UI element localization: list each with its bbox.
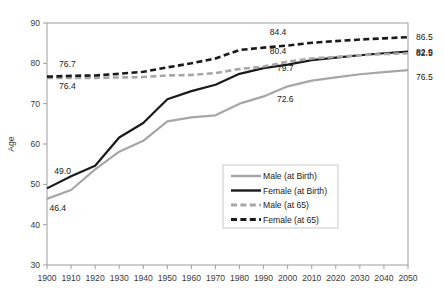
y-tick-label: 70 xyxy=(30,99,40,109)
legend-label[interactable]: Male (at 65) xyxy=(263,200,309,210)
x-tick-label: 1960 xyxy=(182,273,201,283)
y-tick-label: 60 xyxy=(30,139,40,149)
x-tick-label: 2010 xyxy=(302,273,321,283)
series-end-label: 86.5 xyxy=(416,32,433,42)
series-end-label: 82.9 xyxy=(416,47,433,57)
y-tick-label: 90 xyxy=(30,18,40,28)
y-tick-label: 80 xyxy=(30,58,40,68)
value-annotation: 79.7 xyxy=(277,63,294,73)
chart-canvas: 90807060504030Age19001910192019301940195… xyxy=(0,0,444,296)
value-annotation: 72.6 xyxy=(277,94,294,104)
y-tick-label: 30 xyxy=(30,260,40,270)
plot-area-border xyxy=(47,23,408,265)
x-tick-label: 1950 xyxy=(158,273,177,283)
x-tick-label: 2030 xyxy=(350,273,369,283)
legend-label[interactable]: Male (at Birth) xyxy=(263,171,317,181)
legend-label[interactable]: Female (at 65) xyxy=(263,215,319,225)
x-tick-label: 1990 xyxy=(254,273,273,283)
x-tick-label: 2000 xyxy=(278,273,297,283)
x-tick-label: 2050 xyxy=(398,273,417,283)
value-annotation: 80.4 xyxy=(270,46,287,56)
y-tick-label: 50 xyxy=(30,179,40,189)
x-tick-label: 1980 xyxy=(230,273,249,283)
legend-label[interactable]: Female (at Birth) xyxy=(263,186,327,196)
x-tick-label: 2040 xyxy=(374,273,393,283)
value-annotation: 76.4 xyxy=(59,81,76,91)
x-tick-label: 1970 xyxy=(206,273,225,283)
x-tick-label: 2020 xyxy=(326,273,345,283)
x-tick-label: 1900 xyxy=(37,273,56,283)
life-expectancy-chart: 90807060504030Age19001910192019301940195… xyxy=(0,0,444,296)
x-tick-label: 1930 xyxy=(110,273,129,283)
x-tick-label: 1910 xyxy=(62,273,81,283)
value-annotation: 46.4 xyxy=(49,203,66,213)
series-end-label: 76.5 xyxy=(416,72,433,82)
value-annotation: 76.7 xyxy=(59,59,76,69)
y-tick-label: 40 xyxy=(30,220,40,230)
y-axis-title: Age xyxy=(6,136,16,152)
value-annotation: 84.4 xyxy=(270,27,287,37)
x-tick-label: 1940 xyxy=(134,273,153,283)
value-annotation: 49.0 xyxy=(54,166,71,176)
x-tick-label: 1920 xyxy=(86,273,105,283)
